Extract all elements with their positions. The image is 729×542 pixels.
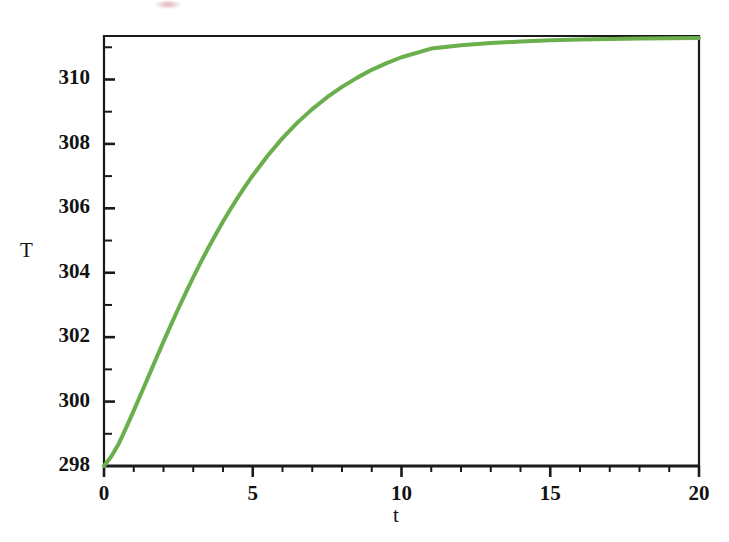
y-tick-label: 304 — [28, 259, 90, 284]
axis-ticks — [104, 47, 699, 477]
plot-figure: T t 29830030230430630831005101520 — [0, 0, 729, 542]
x-axis-label: t — [393, 503, 399, 528]
y-tick-label: 308 — [28, 130, 90, 155]
x-tick-label: 0 — [74, 481, 134, 506]
plot-canvas — [0, 0, 729, 542]
y-tick-label: 298 — [28, 452, 90, 477]
data-curve — [104, 38, 699, 466]
x-tick-label: 5 — [223, 481, 283, 506]
y-tick-label: 306 — [28, 194, 90, 219]
x-tick-label: 15 — [520, 481, 580, 506]
axes-frame — [104, 36, 699, 466]
y-tick-label: 302 — [28, 323, 90, 348]
y-tick-label: 310 — [28, 65, 90, 90]
y-tick-label: 300 — [28, 388, 90, 413]
x-tick-label: 10 — [372, 481, 432, 506]
x-tick-label: 20 — [669, 481, 729, 506]
